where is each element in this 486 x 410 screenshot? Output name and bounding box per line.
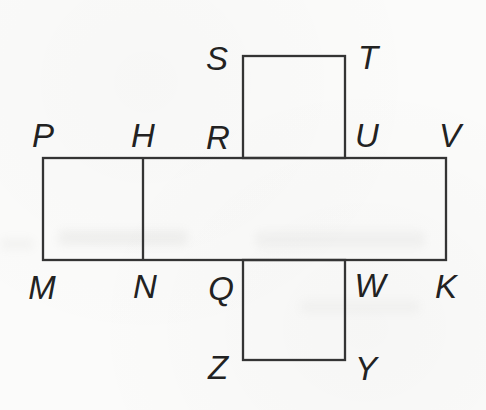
vertex-label-H: H	[131, 117, 155, 154]
vertex-label-T: T	[358, 39, 381, 76]
vertex-label-V: V	[439, 117, 464, 154]
vertex-label-S: S	[206, 40, 228, 77]
vertex-label-Y: Y	[355, 350, 379, 387]
vertex-label-M: M	[28, 269, 56, 306]
vertex-label-Z: Z	[207, 349, 230, 386]
top-square	[243, 56, 345, 158]
cube-net-figure: STPHRUVMNQWKZY	[0, 0, 486, 410]
scanned-textbook-page: STPHRUVMNQWKZY	[0, 0, 486, 410]
vertex-label-Q: Q	[208, 270, 234, 307]
vertex-label-W: W	[354, 267, 388, 304]
vertex-label-K: K	[435, 268, 459, 305]
middle-strip	[43, 158, 446, 260]
vertex-label-R: R	[206, 119, 230, 156]
vertex-label-P: P	[32, 117, 54, 154]
vertex-label-N: N	[133, 268, 157, 305]
bottom-square	[243, 260, 345, 360]
vertex-label-U: U	[355, 117, 379, 154]
